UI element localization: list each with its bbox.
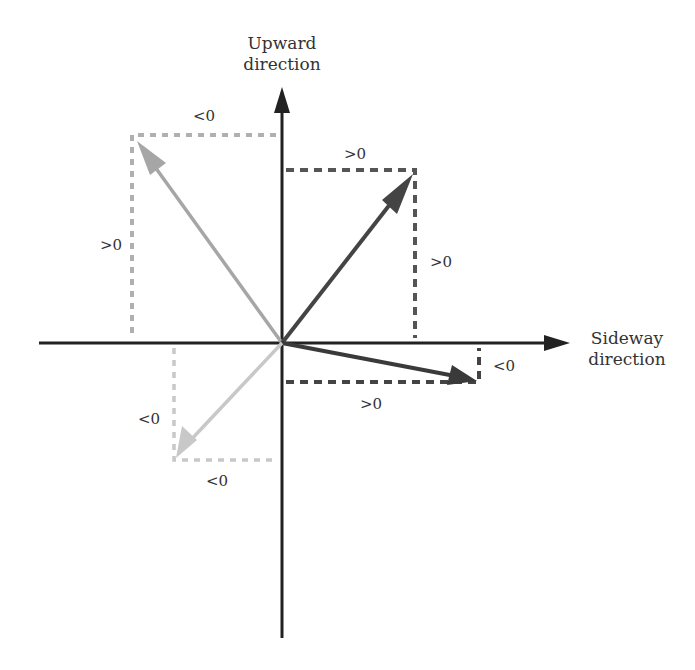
vector-q2 [132, 135, 282, 343]
label-q1-right: >0 [430, 253, 452, 271]
vertical-axis-title-line1: Upward [232, 33, 332, 54]
horizontal-axis-arrow-icon [544, 335, 570, 351]
label-q3-left: <0 [138, 410, 160, 428]
vector-q1 [282, 170, 415, 343]
label-q2-top: <0 [193, 107, 215, 125]
vertical-axis-title-line2: direction [232, 54, 332, 75]
vector-q3 [174, 343, 282, 460]
label-q4-right: <0 [493, 357, 515, 375]
vector-q4 [282, 343, 479, 385]
horizontal-axis-title: Sideway direction [577, 328, 677, 370]
label-q1-top: >0 [344, 145, 366, 163]
label-q3-bottom: <0 [206, 472, 228, 490]
vertical-axis-title: Upward direction [232, 33, 332, 75]
vertical-axis-arrow-icon [274, 87, 290, 113]
label-q2-left: >0 [100, 236, 122, 254]
label-q4-bottom: >0 [360, 395, 382, 413]
horizontal-axis-title-line1: Sideway [577, 328, 677, 349]
horizontal-axis-title-line2: direction [577, 349, 677, 370]
